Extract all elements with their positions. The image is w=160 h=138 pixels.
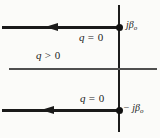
- locus-branch-bottom: [2, 109, 119, 112]
- locus-branch-top: [2, 26, 119, 29]
- s-plane-diagram: q = 0 q > 0 q = 0 jβo − jβo: [0, 0, 160, 138]
- label-q-equals-0-bottom: q = 0: [80, 92, 105, 104]
- arrowhead-left-icon: [45, 23, 58, 31]
- pole-marker-top: [116, 24, 123, 31]
- arrowhead-left-icon: [41, 106, 54, 114]
- label-j-beta-o: jβo: [126, 19, 137, 30]
- real-axis-line: [9, 68, 157, 70]
- label-q-equals-0-top: q = 0: [79, 31, 104, 43]
- label-q-greater-0: q > 0: [36, 49, 61, 61]
- pole-marker-bottom: [116, 107, 123, 114]
- label-minus-j-beta-o: − jβo: [123, 102, 144, 113]
